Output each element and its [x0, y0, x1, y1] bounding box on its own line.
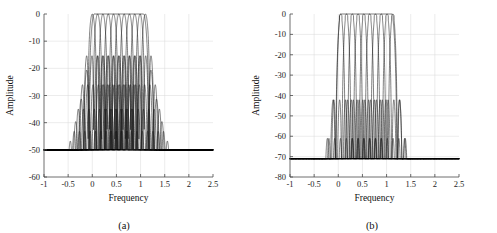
y-tick-label: 0	[282, 9, 286, 19]
y-tick-label: -30	[29, 91, 40, 101]
x-tick-label: 1.5	[405, 179, 416, 189]
y-axis-title: Amplitude	[251, 75, 261, 116]
x-tick-label: -1	[286, 179, 293, 189]
x-tick-label: 0	[336, 179, 340, 189]
panel-b-caption: (b)	[248, 220, 496, 231]
panel-b: -1-0.500.511.522.5-80-70-60-50-40-30-20-…	[248, 0, 496, 233]
y-tick-label: -60	[275, 131, 286, 141]
y-tick-label: -40	[29, 118, 40, 128]
x-tick-label: 2.5	[208, 179, 219, 189]
y-tick-label: -80	[275, 172, 286, 182]
y-axis-title: Amplitude	[5, 75, 15, 116]
panel-a-caption: (a)	[0, 220, 248, 231]
x-tick-label: -0.5	[307, 179, 320, 189]
panel-a: -1-0.500.511.522.5-60-50-40-30-20-100Fre…	[0, 0, 248, 233]
y-tick-label: -70	[275, 152, 286, 162]
y-tick-label: 0	[36, 9, 40, 19]
y-tick-label: -60	[29, 172, 40, 182]
x-tick-label: 2	[433, 179, 437, 189]
y-tick-label: -30	[275, 70, 286, 80]
x-tick-label: -0.5	[61, 179, 74, 189]
x-tick-label: 1	[384, 179, 388, 189]
x-tick-label: 0.5	[111, 179, 122, 189]
y-tick-label: -20	[29, 63, 40, 73]
y-tick-label: -10	[275, 29, 286, 39]
x-axis-title: Frequency	[108, 193, 148, 203]
y-tick-label: -20	[275, 50, 286, 60]
x-tick-label: -1	[40, 179, 47, 189]
y-tick-label: -10	[29, 36, 40, 46]
y-tick-label: -50	[29, 145, 40, 155]
x-tick-label: 0.5	[357, 179, 368, 189]
x-tick-label: 2	[187, 179, 191, 189]
x-axis-title: Frequency	[354, 193, 394, 203]
x-tick-label: 2.5	[454, 179, 465, 189]
x-tick-label: 0	[90, 179, 94, 189]
chart-a: -1-0.500.511.522.5-60-50-40-30-20-100Fre…	[0, 0, 248, 233]
x-tick-label: 1.5	[159, 179, 170, 189]
y-tick-label: -50	[275, 111, 286, 121]
chart-b: -1-0.500.511.522.5-80-70-60-50-40-30-20-…	[248, 0, 497, 233]
figure-container: -1-0.500.511.522.5-60-50-40-30-20-100Fre…	[0, 0, 497, 233]
y-tick-label: -40	[275, 91, 286, 101]
x-tick-label: 1	[138, 179, 142, 189]
